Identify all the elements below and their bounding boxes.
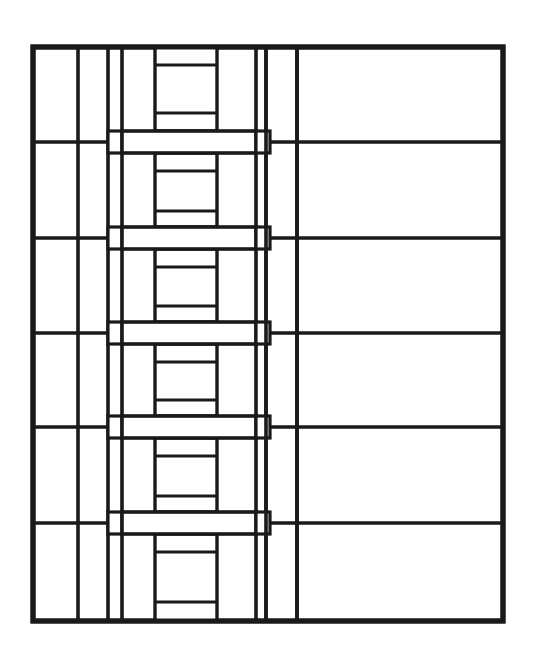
rung-3-cap-right <box>256 322 270 344</box>
rung-2-bar <box>122 227 256 249</box>
rung-1-cap-left <box>108 131 122 153</box>
center-inner-box-3 <box>155 249 217 322</box>
center-inner-box-4 <box>155 344 217 416</box>
line-drawing-svg <box>0 0 537 661</box>
rung-1-bar <box>122 131 256 153</box>
rung-5-cap-right <box>256 512 270 534</box>
rung-1-cap-right <box>256 131 270 153</box>
rung-2-cap-right <box>256 227 270 249</box>
center-inner-box-2 <box>155 153 217 227</box>
rung-3-bar <box>122 322 256 344</box>
rung-5-bar <box>122 512 256 534</box>
center-inner-box-5 <box>155 438 217 512</box>
rung-2-cap-left <box>108 227 122 249</box>
center-inner-box-1 <box>155 47 217 131</box>
center-inner-box-6 <box>155 534 217 621</box>
rung-4-bar <box>122 416 256 438</box>
rung-4-cap-right <box>256 416 270 438</box>
rung-5-cap-left <box>108 512 122 534</box>
rung-4-cap-left <box>108 416 122 438</box>
figure-canvas <box>0 0 537 661</box>
rung-3-cap-left <box>108 322 122 344</box>
